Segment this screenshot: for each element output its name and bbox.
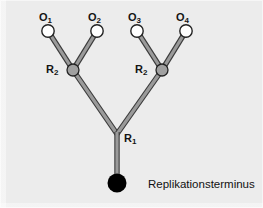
replication-tree-graphic bbox=[0, 0, 263, 208]
label-origin-3: O3 bbox=[128, 12, 141, 25]
label-origin-2-subscript: 2 bbox=[97, 16, 101, 25]
label-origin-4-subscript: 4 bbox=[185, 16, 189, 25]
label-origin-4: O4 bbox=[176, 12, 189, 25]
figure-canvas: O1 O2 O3 O4 R2 R2 R1 Replikationsterminu… bbox=[0, 0, 263, 208]
label-origin-1-subscript: 1 bbox=[48, 16, 52, 25]
label-origin-1: O1 bbox=[39, 12, 52, 25]
node-terminus bbox=[108, 174, 127, 193]
node-R2-left bbox=[67, 64, 79, 76]
label-fork-r2-left: R2 bbox=[46, 64, 58, 77]
node-O2 bbox=[91, 25, 103, 37]
label-fork-r1-subscript: 1 bbox=[132, 137, 136, 146]
label-origin-4-text: O bbox=[176, 11, 185, 23]
label-fork-r2-left-subscript: 2 bbox=[54, 68, 58, 77]
label-origin-3-text: O bbox=[128, 11, 137, 23]
label-origin-2: O2 bbox=[88, 12, 101, 25]
label-fork-r2-right-text: R bbox=[135, 63, 143, 75]
node-O1 bbox=[42, 25, 54, 37]
label-origin-2-text: O bbox=[88, 11, 97, 23]
label-fork-r2-right-subscript: 2 bbox=[143, 68, 147, 77]
label-fork-r1-text: R bbox=[124, 132, 132, 144]
label-fork-r2-left-text: R bbox=[46, 63, 54, 75]
label-fork-r1: R1 bbox=[124, 133, 136, 146]
node-O4 bbox=[180, 25, 192, 37]
branch-edges-group bbox=[48, 31, 186, 183]
label-origin-1-text: O bbox=[39, 11, 48, 23]
label-origin-3-subscript: 3 bbox=[137, 16, 141, 25]
node-R2-right bbox=[156, 64, 168, 76]
node-O3 bbox=[131, 25, 143, 37]
label-replikationsterminus: Replikationsterminus bbox=[148, 179, 255, 191]
edge-R2left-R1 bbox=[73, 70, 117, 134]
label-fork-r2-right: R2 bbox=[135, 64, 147, 77]
edge-R2right-R1 bbox=[117, 70, 162, 134]
